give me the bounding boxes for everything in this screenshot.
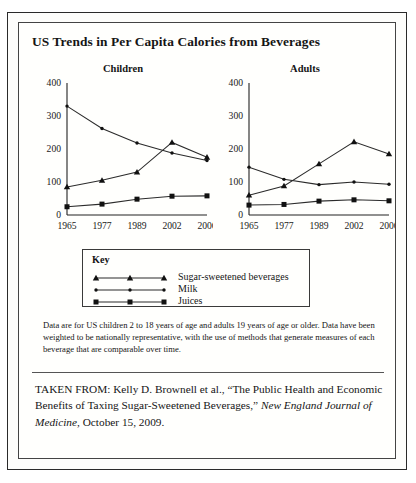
line-chart-children: 010020030040019651977198920022006 bbox=[33, 77, 213, 243]
chart-title-adults: Adults bbox=[215, 63, 416, 74]
legend-item-label: Milk bbox=[168, 283, 197, 294]
charts-row: Children 0100200300400196519771989200220… bbox=[19, 63, 395, 243]
divider bbox=[32, 372, 384, 373]
svg-text:100: 100 bbox=[47, 176, 62, 187]
svg-text:2006: 2006 bbox=[379, 220, 395, 231]
svg-text:1977: 1977 bbox=[92, 220, 111, 231]
chart-panel-adults: Adults 010020030040019651977198920022006 bbox=[215, 63, 395, 243]
figure-inner-border: US Trends in Per Capita Calories from Be… bbox=[18, 22, 396, 459]
legend-item-label: Sugar-sweetened beverages bbox=[168, 271, 289, 282]
svg-text:2002: 2002 bbox=[162, 220, 181, 231]
legend-items: Sugar-sweetened beveragesMilkJuices bbox=[92, 270, 304, 306]
square-marker bbox=[92, 294, 168, 306]
figure-caption: Data are for US children 2 to 18 years o… bbox=[43, 319, 381, 356]
source-suffix: , October 15, 2009. bbox=[77, 416, 164, 428]
svg-text:1965: 1965 bbox=[57, 220, 76, 231]
svg-text:1965: 1965 bbox=[239, 220, 258, 231]
svg-text:100: 100 bbox=[229, 176, 244, 187]
triangle-marker bbox=[92, 270, 168, 282]
svg-text:1989: 1989 bbox=[127, 220, 146, 231]
svg-text:300: 300 bbox=[229, 110, 244, 121]
svg-text:1989: 1989 bbox=[309, 220, 328, 231]
svg-text:2002: 2002 bbox=[344, 220, 363, 231]
legend-item: Juices bbox=[92, 294, 304, 306]
svg-text:2006: 2006 bbox=[197, 220, 213, 231]
figure-outer-border: US Trends in Per Capita Calories from Be… bbox=[7, 12, 407, 470]
figure-title: US Trends in Per Capita Calories from Be… bbox=[32, 34, 320, 50]
legend-title: Key bbox=[92, 254, 110, 265]
svg-text:400: 400 bbox=[229, 77, 244, 88]
svg-text:0: 0 bbox=[238, 209, 243, 220]
legend-item: Sugar-sweetened beverages bbox=[92, 270, 304, 282]
line-chart-adults: 010020030040019651977198920022006 bbox=[215, 77, 395, 243]
legend-item-label: Juices bbox=[168, 295, 202, 306]
figure-source: TAKEN FROM: Kelly D. Brownell et al., “T… bbox=[35, 381, 385, 430]
svg-text:300: 300 bbox=[47, 110, 62, 121]
svg-text:400: 400 bbox=[47, 77, 62, 88]
legend: Key Sugar-sweetened beveragesMilkJuices bbox=[82, 249, 310, 307]
svg-text:0: 0 bbox=[56, 209, 61, 220]
svg-text:1977: 1977 bbox=[274, 220, 293, 231]
chart-panel-children: Children 0100200300400196519771989200220… bbox=[33, 63, 213, 243]
svg-text:200: 200 bbox=[47, 143, 62, 154]
svg-text:200: 200 bbox=[229, 143, 244, 154]
dot-marker bbox=[92, 282, 168, 294]
legend-item: Milk bbox=[92, 282, 304, 294]
